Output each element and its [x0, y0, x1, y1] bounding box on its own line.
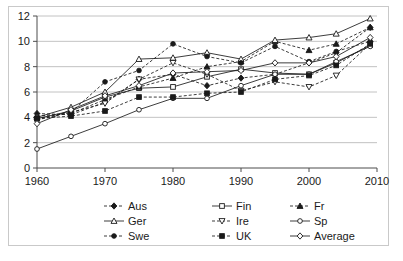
data-point	[239, 61, 244, 66]
chart-legend: AusFinFrGerIreSpSweUKAverage	[104, 200, 355, 242]
data-point	[34, 121, 40, 127]
data-series-group	[34, 16, 373, 152]
x-tick-label: 1980	[161, 175, 185, 187]
data-point	[204, 83, 210, 89]
legend-item-sp[interactable]: Sp	[290, 215, 327, 227]
legend-marker-filled-circle-icon	[112, 234, 117, 239]
legend-label: Ger	[128, 215, 147, 227]
data-point	[306, 85, 312, 90]
series-line	[37, 38, 370, 124]
line-chart: 024681012 196019701980199020002010 AusFi…	[0, 0, 403, 261]
data-point	[272, 60, 278, 66]
y-tick-label: 12	[18, 10, 30, 22]
data-point	[238, 75, 244, 81]
data-point	[205, 96, 210, 101]
series-line	[37, 45, 370, 118]
x-tick-label: 1990	[229, 175, 253, 187]
data-point	[103, 109, 108, 114]
data-point	[137, 95, 142, 100]
legend-label: Average	[314, 230, 355, 242]
legend-label: Fr	[314, 200, 325, 212]
data-point	[334, 63, 339, 68]
data-point	[35, 147, 40, 152]
data-point	[333, 73, 339, 78]
legend-marker-open-square-icon	[220, 204, 225, 209]
series-swe	[35, 39, 373, 121]
x-tick-label: 1970	[93, 175, 117, 187]
legend-marker-filled-diamond-icon	[111, 203, 117, 209]
legend-marker-filled-square-icon	[220, 234, 225, 239]
data-point	[239, 90, 244, 95]
y-tick-label: 6	[24, 86, 30, 98]
data-point	[137, 107, 142, 112]
data-point	[103, 121, 108, 126]
legend-item-fr[interactable]: Fr	[290, 200, 325, 212]
y-tick-label: 10	[18, 35, 30, 47]
x-tick-label: 2000	[297, 175, 321, 187]
legend-label: Aus	[128, 200, 147, 212]
legend-item-aus[interactable]: Aus	[104, 200, 147, 212]
x-tick-label: 2010	[365, 175, 389, 187]
series-average	[34, 34, 373, 126]
data-point	[368, 42, 373, 47]
legend-item-fin[interactable]: Fin	[212, 200, 251, 212]
series-line	[37, 19, 370, 118]
series-ire	[34, 41, 373, 122]
data-point	[333, 31, 339, 36]
data-point	[205, 91, 210, 96]
legend-label: Fin	[236, 200, 251, 212]
legend-item-swe[interactable]: Swe	[104, 230, 149, 242]
legend-marker-open-diamond-icon	[297, 233, 303, 239]
x-tick-label: 1960	[25, 175, 49, 187]
legend-marker-open-circle-icon	[298, 219, 303, 224]
legend-item-average[interactable]: Average	[290, 230, 355, 242]
y-tick-label: 0	[24, 162, 30, 174]
legend-label: Ire	[236, 215, 249, 227]
data-point	[171, 85, 176, 90]
data-point	[273, 44, 278, 49]
data-point	[205, 54, 210, 59]
data-point	[171, 42, 176, 47]
data-point	[171, 95, 176, 100]
legend-item-ger[interactable]: Ger	[104, 215, 147, 227]
legend-label: Sp	[314, 215, 327, 227]
y-tick-label: 4	[24, 111, 30, 123]
data-point	[69, 134, 74, 139]
y-tick-label: 8	[24, 61, 30, 73]
data-point	[103, 80, 108, 85]
data-point	[273, 72, 278, 77]
data-point	[307, 73, 312, 78]
data-point	[273, 77, 278, 82]
data-point	[239, 83, 244, 88]
y-tick-label: 2	[24, 137, 30, 149]
legend-label: Swe	[128, 230, 149, 242]
legend-item-ire[interactable]: Ire	[212, 215, 249, 227]
legend-item-uk[interactable]: UK	[212, 230, 252, 242]
legend-label: UK	[236, 230, 252, 242]
data-point	[69, 114, 74, 119]
y-axis-tick-labels: 024681012	[18, 10, 30, 174]
x-axis-tick-labels: 196019701980199020002010	[25, 175, 389, 187]
data-point	[137, 68, 142, 73]
